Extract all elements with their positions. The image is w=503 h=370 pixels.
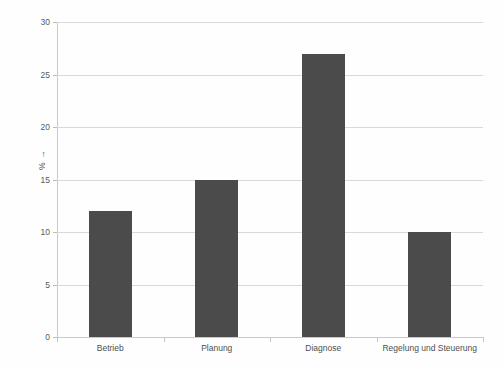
y-axis-tick-mark — [53, 127, 57, 128]
plot-area — [57, 22, 483, 337]
bar-regelung-und-steuerung — [408, 232, 451, 337]
y-axis-tick-label: 15 — [6, 175, 50, 185]
x-axis-tick-mark — [270, 337, 271, 342]
y-axis-tick-label: 5 — [6, 280, 50, 290]
gridline — [57, 127, 483, 128]
bar-planung — [195, 180, 238, 338]
bar-chart: % → 051015202530 BetriebPlanungDiagnoseR… — [0, 0, 503, 370]
x-axis-category-label: Diagnose — [305, 343, 341, 354]
y-axis-tick-mark — [53, 22, 57, 23]
y-axis-tick-mark — [53, 232, 57, 233]
y-axis-tick-label: 0 — [6, 332, 50, 342]
y-axis-tick-labels: 051015202530 — [0, 22, 50, 338]
y-axis-tick-label: 20 — [6, 122, 50, 132]
gridline — [57, 22, 483, 23]
y-axis-tick-label: 30 — [6, 17, 50, 27]
x-axis-tick-mark — [164, 337, 165, 342]
y-axis-tick-label: 25 — [6, 70, 50, 80]
y-axis-tick-mark — [53, 75, 57, 76]
x-axis-category-label: Planung — [201, 343, 232, 354]
bar-diagnose — [302, 54, 345, 338]
x-axis-category-label: Regelung und Steuerung — [382, 343, 477, 354]
x-axis-tick-mark — [377, 337, 378, 342]
y-axis-tick-label: 10 — [6, 227, 50, 237]
y-axis-tick-mark — [53, 180, 57, 181]
gridline — [57, 180, 483, 181]
x-axis-tick-mark — [483, 337, 484, 342]
y-axis-tick-mark — [53, 285, 57, 286]
gridline — [57, 75, 483, 76]
x-axis-category-label: Betrieb — [97, 343, 124, 354]
bar-betrieb — [89, 211, 132, 337]
x-axis-tick-mark — [57, 337, 58, 342]
